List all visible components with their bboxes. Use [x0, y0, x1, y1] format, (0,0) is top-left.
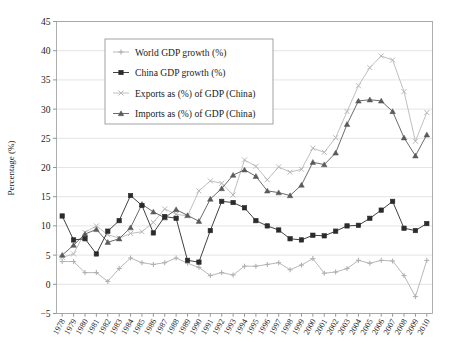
data-point-2004 [356, 223, 360, 227]
data-point-1981 [94, 252, 98, 256]
y-tick-label-0: 0 [46, 280, 51, 290]
data-point-2010 [425, 221, 429, 225]
data-point-1986 [151, 231, 155, 235]
data-point-2002 [333, 229, 337, 233]
legend-label: Exports as (%) of GDP (China) [135, 88, 255, 100]
data-point-1980 [83, 237, 87, 241]
data-point-1992 [220, 199, 224, 203]
y-tick-label-5: 5 [46, 251, 51, 261]
gdp-trade-line-chart: −5051015202530354045 1978197919801981198… [0, 0, 449, 352]
y-tick-label-35: 35 [41, 75, 51, 85]
legend-label: Imports as (%) of GDP (China) [135, 108, 255, 120]
data-point-2001 [322, 234, 326, 238]
y-tick-label-10: 10 [41, 221, 51, 231]
data-point-1991 [208, 228, 212, 232]
y-tick-label-20: 20 [41, 163, 51, 173]
data-point-2007 [390, 199, 394, 203]
data-point-1994 [242, 206, 246, 210]
y-tick-label-40: 40 [41, 46, 51, 56]
data-point-1993 [231, 200, 235, 204]
data-point-2006 [379, 208, 383, 212]
data-point-1988 [174, 216, 178, 220]
y-tick-label-30: 30 [41, 105, 51, 115]
y-tick-label-45: 45 [41, 17, 51, 27]
data-point-2009 [413, 228, 417, 232]
data-point-1997 [276, 228, 280, 232]
chart-legend: World GDP growth (%)China GDP growth (%)… [105, 39, 273, 124]
legend-label: World GDP growth (%) [135, 47, 226, 59]
data-point-1998 [288, 237, 292, 241]
data-point-1989 [185, 258, 189, 262]
legend-item-3[interactable]: Exports as (%) of GDP (China) [113, 88, 255, 100]
data-point-1995 [254, 218, 258, 222]
data-point-1983 [117, 218, 121, 222]
data-point-1985 [140, 203, 144, 207]
y-tick-label--5: −5 [40, 309, 50, 319]
y-tick-label-15: 15 [41, 192, 51, 202]
chart-container: −5051015202530354045 1978197919801981198… [0, 0, 449, 352]
data-point-1999 [299, 238, 303, 242]
y-tick-label-25: 25 [41, 134, 51, 144]
data-point-1979 [71, 238, 75, 242]
data-point-2003 [345, 224, 349, 228]
data-point-2000 [311, 233, 315, 237]
data-point-1978 [60, 214, 64, 218]
y-axis-label: Percentage (%) [6, 140, 16, 195]
legend-item-4[interactable]: Imports as (%) of GDP (China) [113, 108, 255, 120]
legend-marker [119, 70, 123, 74]
legend-label: China GDP growth (%) [135, 67, 226, 79]
data-point-2005 [368, 216, 372, 220]
data-point-1982 [106, 229, 110, 233]
data-point-1996 [265, 224, 269, 228]
data-point-1987 [163, 214, 167, 218]
data-point-2008 [402, 226, 406, 230]
data-point-1990 [197, 260, 201, 264]
data-point-1984 [128, 193, 132, 197]
